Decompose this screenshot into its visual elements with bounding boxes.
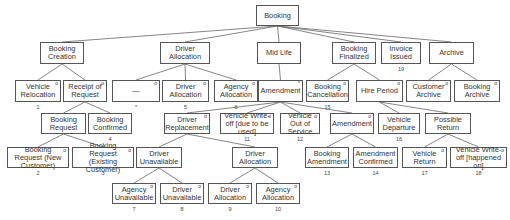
edge-booking-to-booking-creation — [62, 26, 278, 42]
selection-marker-icon: o — [445, 81, 448, 86]
selection-marker-icon: o — [501, 148, 504, 153]
node-possible-return: Possible Return — [425, 113, 471, 134]
node-receipt-of-request: Receipt of Requesto — [63, 80, 107, 102]
edge-driver-allocation-3-to-driver-allocation-4 — [230, 168, 255, 183]
node-number: 12 — [290, 136, 310, 142]
node-booking-finalized: Booking Finalized — [332, 42, 376, 64]
edge-driver-allocation-1-to-agency-allocation-1 — [185, 64, 236, 80]
iteration-marker-icon: * — [298, 81, 300, 86]
node-vehicle-departure: Vehicle Departure — [378, 113, 420, 134]
node-label: Hire Period — [361, 87, 398, 95]
selection-marker-icon: o — [154, 81, 157, 86]
node-agency-allocation-2: Agency Allocationo — [256, 183, 300, 204]
edge-booking-finalized-to-hire-period — [354, 64, 380, 80]
edge-mid-life-to-amendment-1 — [279, 64, 281, 80]
node-label: Archive — [439, 49, 464, 57]
node-label: Driver Unavailable — [163, 186, 202, 202]
edge-amendment-2-to-booking-amendment — [327, 134, 352, 147]
node-number: 18 — [469, 170, 489, 176]
node-number: 10 — [268, 206, 288, 212]
edge-booking-to-mid-life — [278, 26, 280, 42]
node-label: Vehicle Write-off [happened on] — [453, 146, 504, 170]
selection-marker-icon: o — [198, 184, 201, 189]
edge-archive-to-booking-archive — [452, 64, 478, 80]
selection-marker-icon: o — [494, 81, 497, 86]
node-label: Booking Request — [44, 116, 83, 132]
edge-possible-return-to-vehicle-return — [425, 134, 449, 147]
node-vehicle-out-of-service: Vehicle Out of Serviceo — [280, 113, 320, 134]
node-number: 2 — [28, 170, 48, 176]
node-vehicle-write-off-1: Vehicle Write-off [due to be used]o — [220, 113, 274, 134]
node-label: Driver Unavailable — [139, 150, 179, 166]
node-booking-confirmed: Booking Confirmed — [88, 113, 132, 134]
node-label: Amendment — [332, 120, 372, 128]
node-number: 15 — [318, 104, 338, 110]
node-label: Driver Allocation — [163, 45, 207, 61]
node-number: 1 — [28, 104, 48, 110]
node-number: 7 — [124, 206, 144, 212]
node-label: Receipt of Request — [66, 83, 104, 99]
node-mid-life: Mid Life — [257, 42, 301, 64]
node-label: Mid Life — [266, 49, 292, 57]
selection-marker-icon: o — [294, 184, 297, 189]
selection-marker-icon: o — [441, 148, 444, 153]
node-booking-request-new: Booking Request (New Customer)o — [7, 147, 69, 168]
node-number: 11 — [237, 136, 257, 142]
node-booking-amendment: Booking Amendment — [305, 147, 349, 168]
node-agency-allocation-1: Agency Allocationo — [214, 80, 258, 102]
node-booking-request-existing: Booking Request (Existing Customer)o — [72, 147, 134, 168]
node-driver-replacement: Driver Replacemento — [164, 113, 210, 134]
node-label: Amendment — [261, 87, 301, 95]
node-amendment-2: Amendmento — [330, 113, 374, 134]
node-driver-allocation-4: Driver Allocationo — [208, 183, 252, 204]
node-label: Possible Return — [428, 116, 468, 132]
node-label: Booking Finalized — [335, 45, 373, 61]
node-label: Booking Request (New Customer) — [10, 146, 66, 170]
edge-driver-allocation-1-to-driver-allocation-2 — [185, 64, 186, 80]
node-agency-unavailable: Agency Unavailableo — [112, 183, 156, 204]
node-number: 17 — [415, 170, 435, 176]
node-label: Booking Amendment — [307, 150, 347, 166]
node-number: 13 — [317, 170, 337, 176]
node-amendment-confirmed: Amendment Confirmed — [353, 147, 398, 168]
edge-booking-to-driver-allocation-1 — [185, 26, 278, 42]
selection-marker-icon: o — [128, 148, 131, 153]
node-label: Agency Allocation — [259, 186, 297, 202]
node-driver-allocation-1: Driver Allocation — [160, 42, 210, 64]
edge-receipt-of-request-to-booking-request — [64, 102, 86, 113]
edge-receipt-of-request-to-booking-confirmed — [85, 102, 110, 113]
node-vehicle-write-off-2: Vehicle Write-off [happened on]o — [450, 147, 507, 168]
node-label: Vehicle Return — [405, 150, 444, 166]
node-booking-archive: Booking Archiveo — [454, 80, 500, 102]
edge-driver-replacement-to-driver-unavailable-1 — [159, 134, 187, 147]
edge-archive-to-customer-archive — [429, 64, 452, 80]
node-label: Customer Archive — [409, 83, 448, 99]
node-label: Booking Confirmed — [91, 116, 129, 132]
node-number: 9 — [220, 206, 240, 212]
node-number: 5 — [176, 104, 196, 110]
selection-marker-icon: o — [314, 114, 317, 119]
node-number: 16 — [389, 136, 409, 142]
edge-driver-allocation-1-to-dash — [136, 64, 185, 80]
tree-edges — [0, 0, 510, 220]
node-label: Booking Request (Existing Customer) — [75, 142, 131, 174]
edge-driver-unavailable-1-to-agency-unavailable — [134, 168, 159, 183]
node-hire-period: Hire Periodo — [356, 80, 403, 102]
node-amendment-1: Amendment* — [258, 80, 303, 102]
node-label: Booking Cancellation — [307, 83, 348, 99]
node-vehicle-relocation: Vehicle Relocationo — [15, 80, 61, 102]
node-label: Vehicle Out of Service — [283, 112, 317, 136]
node-driver-unavailable-1: Driver Unavailable — [136, 147, 182, 168]
edge-booking-finalized-to-booking-cancellation — [328, 64, 355, 80]
node-number: 6 — [226, 104, 246, 110]
node-label: Amendment Confirmed — [356, 150, 396, 166]
node-number: 14 — [366, 170, 386, 176]
selection-marker-icon: o — [397, 81, 400, 86]
node-number: 8 — [172, 206, 192, 212]
node-driver-allocation-3: Driver Allocation — [232, 147, 278, 168]
edge-driver-allocation-3-to-agency-allocation-2 — [255, 168, 278, 183]
node-label: Agency Allocation — [217, 83, 255, 99]
node-booking: Booking — [256, 5, 299, 26]
edge-booking-creation-to-receipt-of-request — [62, 64, 85, 80]
node-label: Agency Unavailable — [115, 186, 154, 202]
